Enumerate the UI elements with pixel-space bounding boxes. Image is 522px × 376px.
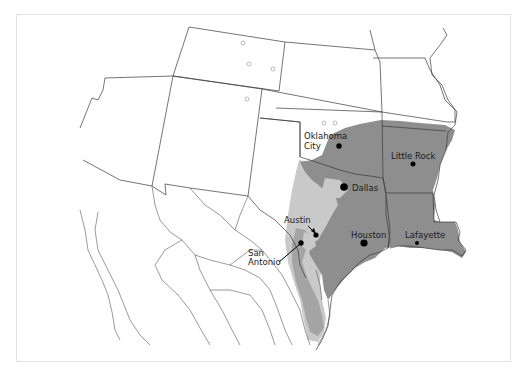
missouri-border [370, 30, 455, 122]
new-mexico-border [152, 76, 262, 196]
mexico-state-lines [152, 186, 310, 345]
city-dot-houston [360, 239, 367, 246]
hollow-markers [241, 41, 337, 125]
colorado-border [173, 27, 285, 91]
mexico-coastline-west [80, 210, 150, 345]
label-san-antonio-line2: Antonio [248, 257, 281, 267]
label-houston: Houston [351, 230, 386, 240]
city-dot-lafayette [415, 241, 419, 245]
city-dot-oklahoma-city [336, 143, 341, 148]
label-lafayette: Lafayette [405, 230, 445, 240]
hollow-marker [271, 67, 275, 71]
hollow-marker [247, 62, 251, 66]
label-oklahoma-city-line2: City [304, 141, 321, 151]
hollow-marker [245, 97, 249, 101]
city-dot-little-rock [411, 162, 416, 167]
map-canvas: Oklahoma City Little Rock Dallas Austin … [0, 0, 522, 376]
label-oklahoma-city-line1: Oklahoma [304, 131, 347, 141]
label-dallas: Dallas [352, 183, 379, 193]
arizona-west-coast [80, 78, 105, 128]
hollow-marker [322, 121, 326, 125]
hollow-marker [333, 121, 337, 125]
label-little-rock: Little Rock [391, 151, 435, 161]
label-austin: Austin [284, 215, 311, 225]
hollow-marker [241, 41, 245, 45]
city-dot-dallas [340, 183, 348, 191]
arizona-border [83, 76, 173, 186]
city-dot-austin [313, 232, 318, 237]
